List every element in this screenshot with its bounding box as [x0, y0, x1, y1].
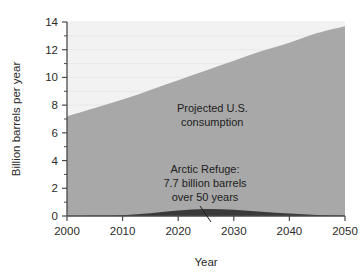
- y-tick-label: 0: [52, 210, 58, 222]
- y-tick-label: 14: [45, 16, 58, 28]
- x-tick-label: 2040: [277, 225, 303, 237]
- consumption-annotation-line-1: Projected U.S.: [177, 102, 248, 114]
- y-tick-label: 12: [45, 44, 58, 56]
- y-tick-label: 10: [45, 71, 58, 83]
- x-tick-label: 2020: [165, 225, 191, 237]
- y-tick-label: 6: [52, 127, 58, 139]
- refuge-annotation-line-3: over 50 years: [172, 191, 239, 203]
- refuge-annotation-line-2: 7.7 billion barrels: [163, 177, 247, 189]
- x-axis-tick-labels: 200020102020203020402050: [54, 225, 358, 237]
- y-tick-label: 8: [52, 99, 58, 111]
- refuge-annotation-line-1: Arctic Refuge:: [170, 163, 239, 175]
- y-axis-ticks: [62, 22, 67, 216]
- chart-svg: 02468101214 200020102020203020402050 Bil…: [0, 0, 361, 278]
- y-tick-label: 2: [52, 182, 58, 194]
- y-tick-label: 4: [52, 155, 59, 167]
- x-tick-label: 2010: [110, 225, 136, 237]
- x-tick-label: 2030: [221, 225, 247, 237]
- consumption-annotation-line-2: consumption: [181, 116, 243, 128]
- chart-container: 02468101214 200020102020203020402050 Bil…: [0, 0, 361, 278]
- y-axis-tick-labels: 02468101214: [45, 16, 58, 222]
- y-axis-title: Billion barrels per year: [10, 62, 22, 177]
- x-axis-title: Year: [194, 256, 217, 268]
- x-tick-label: 2000: [54, 225, 80, 237]
- x-axis-ticks: [67, 216, 345, 221]
- x-tick-label: 2050: [332, 225, 358, 237]
